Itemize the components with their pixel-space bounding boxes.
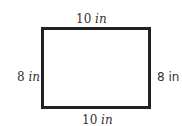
left-side-label: 8 in [17, 71, 40, 83]
bottom-side-label: 10 in [82, 114, 113, 126]
rectangle [41, 27, 151, 109]
right-side-label: 8 in [157, 71, 179, 83]
top-side-label: 10 in [76, 13, 107, 25]
